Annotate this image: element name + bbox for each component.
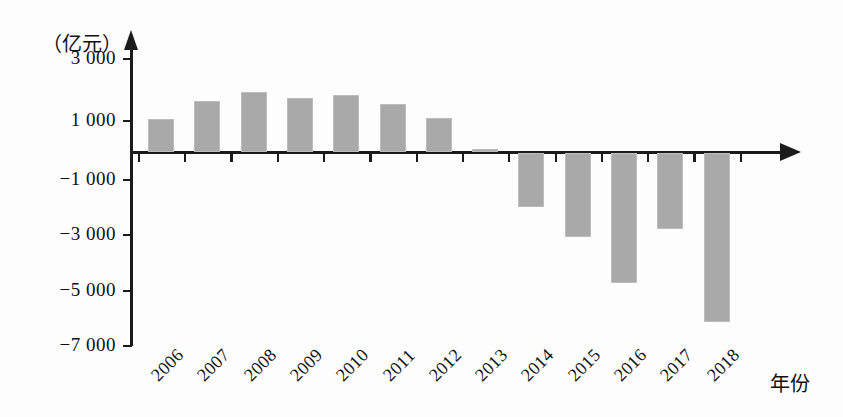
x-axis-tick [277, 153, 279, 162]
x-axis-tick-label: 2011 [379, 345, 420, 386]
x-axis-tick [184, 153, 186, 162]
x-axis-tick [230, 153, 232, 162]
x-axis-tick-label: 2009 [286, 345, 327, 386]
x-axis-tick [647, 153, 649, 162]
x-axis-tick-label: 2012 [425, 345, 466, 386]
bar [657, 153, 683, 229]
chart-figure: （亿元） 3 0001 000−1 000−3 000−5 000−7 000 … [0, 0, 843, 417]
x-axis-tick [323, 153, 325, 162]
y-axis-tick [123, 58, 132, 60]
x-axis-tick [462, 153, 464, 162]
x-axis-tick [740, 153, 742, 162]
bar [611, 153, 637, 283]
x-axis-tick-label: 2013 [471, 345, 512, 386]
x-axis-tick [369, 153, 371, 162]
x-axis-tick-label: 2007 [193, 345, 234, 386]
x-axis-tick [693, 153, 695, 162]
x-axis-line [130, 151, 783, 154]
x-axis-tick [416, 153, 418, 162]
bar [287, 98, 313, 152]
bar [426, 118, 452, 152]
x-axis-tick-label: 2014 [517, 345, 558, 386]
bar [565, 153, 591, 237]
y-axis-tick-label: −5 000 [30, 279, 116, 301]
arrow-up-icon [124, 30, 138, 50]
x-axis-title: 年份 [770, 368, 810, 397]
bar [148, 119, 174, 152]
bar [241, 92, 267, 152]
x-axis-tick-label: 2017 [656, 345, 697, 386]
y-axis-tick-label: −1 000 [30, 168, 116, 190]
bar [518, 153, 544, 207]
y-axis-tick [123, 179, 132, 181]
x-axis-tick-label: 2006 [147, 345, 188, 386]
y-axis-tick [123, 345, 132, 347]
x-axis-tick-label: 2015 [564, 345, 605, 386]
x-axis-tick [508, 153, 510, 162]
y-axis-tick-label: 1 000 [30, 109, 116, 131]
x-axis-tick [138, 153, 140, 162]
arrow-right-icon [780, 143, 801, 161]
x-axis-tick-label: 2008 [240, 345, 281, 386]
y-axis-line [130, 46, 133, 346]
y-axis-tick [123, 290, 132, 292]
y-axis-tick-label: −3 000 [30, 223, 116, 245]
x-axis-tick [601, 153, 603, 162]
bar [472, 149, 498, 152]
y-axis-tick-label: −7 000 [30, 334, 116, 356]
y-axis-tick [123, 120, 132, 122]
y-axis-tick-label: 3 000 [30, 47, 116, 69]
x-axis-tick-label: 2016 [610, 345, 651, 386]
y-axis-tick [123, 234, 132, 236]
x-axis-tick [555, 153, 557, 162]
bar [704, 153, 730, 322]
bar [380, 104, 406, 152]
x-axis-tick-label: 2010 [332, 345, 373, 386]
chart-plot-area: （亿元） 3 0001 000−1 000−3 000−5 000−7 000 … [0, 0, 843, 417]
bar [333, 95, 359, 152]
bar [194, 101, 220, 152]
x-axis-tick-label: 2018 [703, 345, 744, 386]
